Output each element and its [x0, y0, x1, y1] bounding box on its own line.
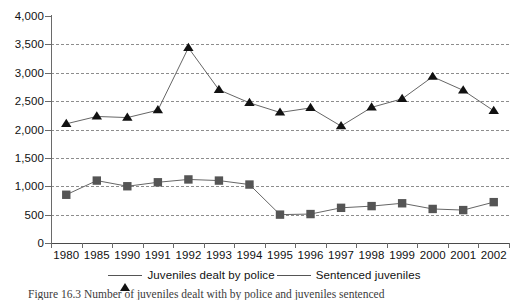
data-point-marker-triangle [244, 98, 254, 106]
data-point-marker-square [490, 198, 498, 206]
data-point-marker-triangle [489, 106, 499, 114]
data-point-marker-square [184, 175, 192, 183]
data-point-marker-square [123, 182, 131, 190]
data-point-marker-triangle [92, 111, 102, 119]
legend-label-sentenced-juveniles: Sentenced juveniles [316, 269, 421, 281]
chart-plot-area: 4,0003,5003,0002,5002,0001,5001,0005000 … [0, 0, 529, 268]
figure-caption: Figure 16.3 Number of juveniles dealt wi… [28, 288, 508, 300]
data-point-marker-square [93, 176, 101, 184]
data-point-marker-square [154, 178, 162, 186]
data-point-marker-square [306, 210, 314, 218]
triangle-marker-icon [108, 269, 142, 281]
data-point-marker-square [459, 206, 467, 214]
data-point-marker-square [337, 204, 345, 212]
data-point-marker-square [428, 205, 436, 213]
data-point-marker-square [276, 210, 284, 218]
data-point-marker-square [398, 199, 406, 207]
legend-label-juveniles-dealt-by-police: Juveniles dealt by police [147, 269, 274, 281]
data-point-marker-triangle [397, 94, 407, 102]
series-juveniles-dealt-by-police [61, 43, 499, 130]
data-point-marker-triangle [427, 72, 437, 80]
data-point-marker-square [215, 176, 223, 184]
series-sentenced-juveniles [62, 175, 498, 219]
data-point-marker-triangle [458, 85, 468, 93]
data-point-marker-square [367, 202, 375, 210]
square-marker-icon [277, 269, 311, 281]
data-point-marker-square [62, 191, 70, 199]
data-point-marker-triangle [305, 103, 315, 111]
data-point-marker-triangle [214, 85, 224, 93]
legend-entry-sentenced-juveniles: Sentenced juveniles [277, 269, 421, 281]
data-point-marker-triangle [183, 43, 193, 51]
data-point-marker-square [245, 180, 253, 188]
data-point-marker-triangle [336, 121, 346, 129]
data-series-overlay [0, 0, 529, 268]
chart-legend: Juveniles dealt by police Sentenced juve… [0, 266, 529, 284]
data-point-marker-triangle [153, 105, 163, 113]
legend-entry-juveniles-dealt-by-police: Juveniles dealt by police [108, 269, 274, 281]
